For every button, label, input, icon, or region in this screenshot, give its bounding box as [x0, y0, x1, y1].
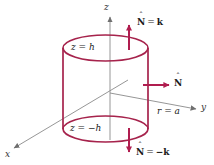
bottom-normal-hat: ˆ: [136, 142, 144, 150]
side-normal-symbol: ˆ N: [174, 79, 182, 88]
z-axis-label: z: [104, 3, 109, 12]
y-axis: [110, 93, 196, 109]
top-normal-hat: ˆ: [137, 12, 145, 20]
coordinate-axes: [14, 17, 196, 148]
bottom-normal-label: ˆ N =−k: [136, 148, 170, 157]
bottom-normal-value: −k: [156, 147, 170, 157]
bottom-disc-label: z = −h: [70, 124, 101, 133]
top-normal-symbol: ˆ N: [137, 18, 145, 27]
x-axis-label: x: [5, 150, 10, 159]
top-normal-equals: =: [147, 17, 155, 27]
side-surface-label: r = a: [157, 107, 180, 116]
top-disc-label: z = h: [71, 43, 95, 52]
top-normal-label: ˆ N =k: [137, 18, 163, 27]
normal-vectors: [129, 25, 169, 152]
side-normal-label: ˆ N: [174, 79, 182, 88]
bottom-normal-equals: =: [146, 147, 154, 157]
y-axis-label: y: [201, 103, 206, 112]
cylinder-flux-diagram: z y x z = h z = −h r = a ˆ N =k ˆ N ˆ N …: [0, 0, 214, 165]
side-normal-hat: ˆ: [174, 73, 182, 81]
top-normal-value: k: [157, 17, 163, 27]
bottom-normal-symbol: ˆ N: [136, 148, 144, 157]
x-axis: [14, 80, 128, 148]
